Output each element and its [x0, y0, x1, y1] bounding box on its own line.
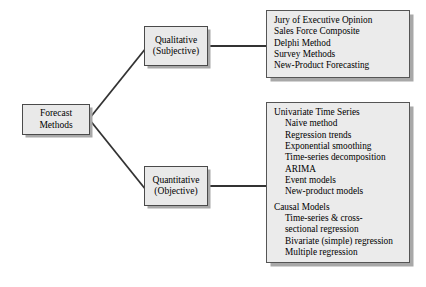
list-item: New-product models — [274, 186, 403, 197]
list-item: sectional regression — [274, 224, 403, 235]
list-item-group-heading: Causal Models — [274, 202, 403, 213]
list-item: Jury of Executive Opinion — [274, 15, 403, 26]
list-box-quantitative-methods: Univariate Time Series Naive method Regr… — [266, 102, 410, 263]
node-qualitative-label: Qualitative (Subjective) — [153, 35, 199, 58]
list-box-qualitative-methods: Jury of Executive Opinion Sales Force Co… — [266, 10, 410, 78]
forecast-methods-diagram: Forecast Methods Qualitative (Subjective… — [0, 0, 426, 287]
node-qualitative-center: Qualitative (Subjective) — [145, 27, 207, 65]
node-quantitative-label: Quantitative (Objective) — [153, 175, 200, 198]
list-item-group-heading: Univariate Time Series — [274, 107, 403, 118]
node-quantitative[interactable]: Quantitative (Objective) — [144, 166, 208, 206]
node-forecast-methods[interactable]: Forecast Methods — [22, 104, 90, 135]
connector-root-to-qualitative — [89, 48, 146, 119]
list-item: Time-series & cross- — [274, 213, 403, 224]
list-item: Event models — [274, 175, 403, 186]
list-item: Exponential smoothing — [274, 141, 403, 152]
node-qualitative[interactable]: Qualitative (Subjective) — [144, 26, 208, 66]
connector-root-to-quantitative — [89, 119, 146, 190]
list-item: Time-series decomposition — [274, 152, 403, 163]
list-item: Delphi Method — [274, 38, 403, 49]
node-quantitative-center: Quantitative (Objective) — [145, 167, 207, 205]
node-forecast-methods-label: Forecast Methods — [39, 108, 72, 131]
list-item: Naive method — [274, 118, 403, 129]
list-item: Regression trends — [274, 130, 403, 141]
list-item: Sales Force Composite — [274, 26, 403, 37]
list-item: New-Product Forecasting — [274, 60, 403, 71]
list-item: Survey Methods — [274, 49, 403, 60]
node-forecast-methods-center: Forecast Methods — [23, 105, 89, 134]
list-item: ARIMA — [274, 164, 403, 175]
list-item: Bivariate (simple) regression — [274, 236, 403, 247]
list-item: Multiple regression — [274, 247, 403, 258]
